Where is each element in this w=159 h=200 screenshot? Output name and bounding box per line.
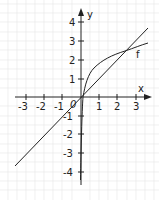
y-tick-label: -3 — [63, 148, 73, 159]
y-tick-label: 1 — [69, 74, 75, 85]
y-tick-label: 3 — [69, 36, 75, 47]
x-tick-label: 2 — [114, 101, 120, 112]
origin-label: 0 — [70, 99, 76, 110]
y-axis-label: y — [87, 9, 93, 20]
x-tick-label: -3 — [18, 101, 28, 112]
y-tick-label: 4 — [69, 17, 75, 28]
x-tick-label: -2 — [36, 101, 46, 112]
y-axis-arrow-icon — [78, 8, 84, 16]
curve-label-f: f — [136, 49, 140, 60]
x-tick-labels: -3 -2 -1 1 2 3 — [18, 101, 139, 112]
y-tick-label: -4 — [63, 167, 73, 178]
x-axis-label: x — [138, 83, 144, 94]
x-tick-label: 3 — [133, 101, 139, 112]
y-tick-label: -1 — [63, 111, 73, 122]
grid — [0, 0, 159, 200]
x-axis-arrow-icon — [144, 94, 152, 100]
y-tick-label: 2 — [69, 55, 75, 66]
x-tick-label: 1 — [96, 101, 102, 112]
chart: x y f 0 -3 -2 -1 1 2 3 4 3 2 1 -1 -2 -3 … — [0, 0, 159, 200]
y-tick-label: -2 — [63, 129, 73, 140]
